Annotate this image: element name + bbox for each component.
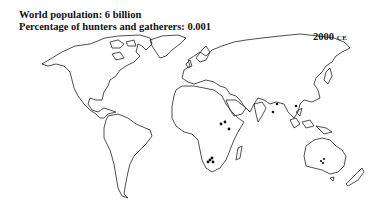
japan-outline [324,68,332,84]
arctic-islands-outline [110,40,136,60]
tasmania-outline [330,177,334,181]
arabia-outline [226,100,246,116]
new-zealand-outline [346,168,364,186]
australia-outline [304,138,346,174]
africa-outline [172,86,244,172]
south-america-outline [104,114,152,198]
madagascar-outline [236,146,242,160]
greenland-outline [150,35,186,58]
world-map [0,0,387,211]
india-outline [254,102,266,122]
southeast-asia-outline [290,108,332,134]
north-america-outline [42,35,152,118]
hunter-gatherer-dots [207,103,326,164]
